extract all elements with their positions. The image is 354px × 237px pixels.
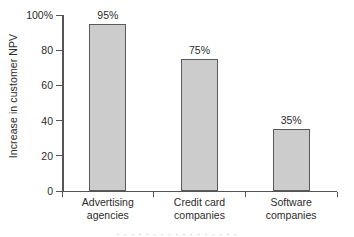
y-axis-tick-label-text: 100% — [0, 10, 53, 20]
y-axis-tick-label: 100% — [0, 10, 53, 20]
bar-value-label: 35% — [261, 115, 321, 126]
y-axis-tick — [56, 120, 62, 121]
x-axis-category-label: Softwarecompanies — [241, 196, 341, 221]
y-axis-tick — [56, 85, 62, 86]
bar-value-label: 75% — [170, 45, 230, 56]
y-axis-tick-label: 40 — [0, 116, 53, 126]
y-axis-tick-label-text: 0 — [0, 186, 53, 196]
x-axis-category-label: Advertisingagencies — [58, 196, 158, 221]
bar — [273, 129, 310, 191]
y-axis-tick-label: 80 — [0, 45, 53, 55]
x-axis-category-label-line: companies — [150, 209, 250, 222]
y-axis-tick-label: 0 — [0, 186, 53, 196]
y-axis-title: Increase in customer NPV — [4, 0, 22, 196]
y-axis-tick — [56, 155, 62, 156]
y-axis-line — [62, 15, 64, 192]
y-axis-tick — [56, 15, 62, 16]
x-axis-category-label-line: agencies — [58, 209, 158, 222]
y-axis-tick-label-text: 40 — [0, 116, 53, 126]
y-axis-tick-label: 60 — [0, 80, 53, 90]
y-axis-tick-label-text: 20 — [0, 151, 53, 161]
chart-figure: Increase in customer NPV 020406080100% 9… — [0, 0, 354, 237]
bar — [89, 24, 126, 191]
x-axis-category-label-line: companies — [241, 209, 341, 222]
x-axis-category-label-line: Advertising — [58, 196, 158, 209]
y-axis-tick-label: 20 — [0, 151, 53, 161]
y-axis-tick — [56, 50, 62, 51]
bar-value-label: 95% — [78, 10, 138, 21]
x-axis-category-label-line: Software — [241, 196, 341, 209]
x-axis-category-label: Credit cardcompanies — [150, 196, 250, 221]
y-axis-tick-label-text: 80 — [0, 45, 53, 55]
bar — [181, 59, 218, 191]
cropped-caption-fragment: · · · · · · · · · · · · · · · · · — [0, 229, 354, 237]
y-axis-tick-label-text: 60 — [0, 80, 53, 90]
x-axis-category-label-line: Credit card — [150, 196, 250, 209]
